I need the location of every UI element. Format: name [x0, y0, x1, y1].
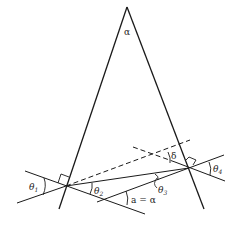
- theta2-arc: [90, 183, 92, 194]
- prism-diagram: α θ1 θ2 θ3 θ4 δ a = α: [0, 0, 238, 229]
- prism-right-side: [127, 7, 204, 209]
- incident-ray-extension: [66, 140, 190, 186]
- theta4-arc: [209, 162, 211, 175]
- apex-angle-label: α: [124, 27, 130, 37]
- theta2-label: θ2: [94, 186, 103, 197]
- a-alpha-arc: [126, 191, 128, 205]
- delta-arc: [168, 152, 170, 163]
- theta1-arc: [43, 178, 45, 195]
- theta3-label: θ3: [158, 185, 167, 196]
- right-right-angle-marker: [186, 157, 196, 165]
- theta4-label: θ4: [213, 164, 222, 175]
- delta-label: δ: [171, 151, 176, 161]
- a-equals-alpha-label: a = α: [131, 195, 156, 205]
- theta1-label: θ1: [29, 182, 38, 193]
- internal-ray: [66, 168, 189, 186]
- incident-ray: [17, 186, 66, 203]
- left-right-angle-marker: [58, 174, 69, 183]
